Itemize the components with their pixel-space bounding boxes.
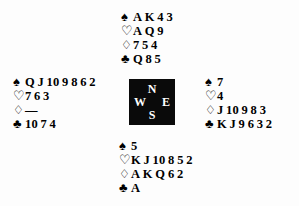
south-heart-row: ♡ KJ10852 xyxy=(119,153,193,167)
card-rank: K xyxy=(145,10,155,24)
compass-west-label: W xyxy=(134,96,146,108)
spade-icon: ♠ xyxy=(119,139,130,152)
west-diamond-row: ♢ — xyxy=(13,103,96,117)
card-rank: J xyxy=(217,103,223,117)
card-rank: 9 xyxy=(157,24,163,38)
card-rank: 7 xyxy=(133,38,139,52)
card-rank: 2 xyxy=(186,153,192,167)
compass-south-label: S xyxy=(129,109,175,121)
spade-icon: ♠ xyxy=(205,75,216,88)
east-club-cards: KJ9632 xyxy=(217,117,272,131)
card-rank: 10 xyxy=(47,75,60,89)
card-rank: 3 xyxy=(166,10,172,24)
north-heart-row: ♡ AQ9 xyxy=(121,24,173,38)
card-rank: 3 xyxy=(260,103,266,117)
card-rank: 4 xyxy=(151,38,157,52)
club-icon: ♣ xyxy=(13,117,24,130)
card-rank: 10 xyxy=(25,117,38,131)
card-rank: 5 xyxy=(142,38,148,52)
card-rank: 5 xyxy=(131,139,137,153)
card-rank: 4 xyxy=(50,117,56,131)
south-heart-cards: KJ10852 xyxy=(131,153,193,167)
card-rank: A xyxy=(133,24,142,38)
heart-icon: ♡ xyxy=(119,153,130,166)
card-rank: 6 xyxy=(168,167,174,181)
east-diamond-cards: J10983 xyxy=(217,103,266,117)
card-rank: 9 xyxy=(242,103,248,117)
hand-west: ♠ QJ109862 ♡ 763 ♢ — ♣ 1074 xyxy=(13,75,96,131)
card-rank: 10 xyxy=(153,153,166,167)
north-spade-row: ♠ AK43 xyxy=(121,10,173,24)
card-rank: Q xyxy=(25,75,35,89)
bridge-deal-diagram: ♠ AK43 ♡ AQ9 ♢ 754 ♣ Q85 ♠ QJ109862 ♡ 76… xyxy=(0,0,299,206)
card-rank: Q xyxy=(155,167,165,181)
west-spade-row: ♠ QJ109862 xyxy=(13,75,96,89)
heart-icon: ♡ xyxy=(121,24,132,37)
north-diamond-cards: 754 xyxy=(133,38,158,52)
hand-north: ♠ AK43 ♡ AQ9 ♢ 754 ♣ Q85 xyxy=(121,10,173,66)
west-club-row: ♣ 1074 xyxy=(13,117,96,131)
east-heart-row: ♡ 4 xyxy=(205,89,272,103)
card-rank: Q xyxy=(145,24,155,38)
card-rank: 2 xyxy=(89,75,95,89)
club-icon: ♣ xyxy=(121,52,132,65)
west-heart-cards: 763 xyxy=(25,89,50,103)
card-rank: 9 xyxy=(239,117,245,131)
card-rank: 8 xyxy=(251,103,257,117)
card-rank: 3 xyxy=(257,117,263,131)
south-club-cards: A xyxy=(131,181,140,195)
south-diamond-row: ♢ AKQ62 xyxy=(119,167,193,181)
card-rank: J xyxy=(38,75,44,89)
card-rank: 2 xyxy=(266,117,272,131)
east-club-row: ♣ KJ9632 xyxy=(205,117,272,131)
card-rank: 2 xyxy=(177,167,183,181)
card-rank: 8 xyxy=(146,52,152,66)
compass-east-label: E xyxy=(162,96,170,108)
card-rank: 6 xyxy=(80,75,86,89)
spade-icon: ♠ xyxy=(121,10,132,23)
north-diamond-row: ♢ 754 xyxy=(121,38,173,52)
spade-icon: ♠ xyxy=(13,75,24,88)
compass-box: N W E S xyxy=(129,79,175,125)
card-rank: 9 xyxy=(62,75,68,89)
south-spade-row: ♠ 5 xyxy=(119,139,193,153)
card-rank: K xyxy=(143,167,153,181)
card-rank: A xyxy=(133,10,142,24)
card-rank: K xyxy=(217,117,227,131)
card-rank: 7 xyxy=(217,75,223,89)
card-rank: 8 xyxy=(168,153,174,167)
club-icon: ♣ xyxy=(205,117,216,130)
card-rank: A xyxy=(131,167,140,181)
card-rank: A xyxy=(131,181,140,195)
west-spade-cards: QJ109862 xyxy=(25,75,96,89)
west-club-cards: 1074 xyxy=(25,117,56,131)
card-rank: 4 xyxy=(157,10,163,24)
heart-icon: ♡ xyxy=(13,89,24,102)
hand-south: ♠ 5 ♡ KJ10852 ♢ AKQ62 ♣ A xyxy=(119,139,193,195)
north-club-cards: Q85 xyxy=(133,52,161,66)
east-spade-cards: 7 xyxy=(217,75,223,89)
card-rank: 6 xyxy=(34,89,40,103)
west-heart-row: ♡ 763 xyxy=(13,89,96,103)
card-rank: 4 xyxy=(217,89,223,103)
north-spade-cards: AK43 xyxy=(133,10,173,24)
compass-north-label: N xyxy=(129,83,175,95)
north-heart-cards: AQ9 xyxy=(133,24,164,38)
south-club-row: ♣ A xyxy=(119,181,193,195)
card-rank: K xyxy=(131,153,141,167)
south-diamond-cards: AKQ62 xyxy=(131,167,183,181)
club-icon: ♣ xyxy=(119,181,130,194)
south-spade-cards: 5 xyxy=(131,139,137,153)
card-rank: 7 xyxy=(25,89,31,103)
north-club-row: ♣ Q85 xyxy=(121,52,173,66)
card-rank: 5 xyxy=(177,153,183,167)
east-heart-cards: 4 xyxy=(217,89,223,103)
card-rank: 6 xyxy=(248,117,254,131)
card-rank: 5 xyxy=(155,52,161,66)
card-rank: 3 xyxy=(43,89,49,103)
heart-icon: ♡ xyxy=(205,89,216,102)
card-rank: 10 xyxy=(226,103,239,117)
card-rank: 7 xyxy=(41,117,47,131)
east-spade-row: ♠ 7 xyxy=(205,75,272,89)
west-diamond-cards: — xyxy=(25,103,38,117)
